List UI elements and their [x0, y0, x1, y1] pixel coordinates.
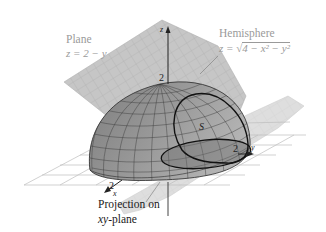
projection-label-line2: xy-plane: [98, 214, 137, 226]
x-axis-label: x: [113, 190, 117, 198]
y-axis-tick: 2: [233, 144, 238, 154]
surface-integral-figure: Plane z = 2 − y Hemisphere z = √4 − x² −…: [0, 0, 326, 232]
figure-canvas: [0, 0, 326, 232]
y-axis-label: y: [251, 144, 255, 152]
plane-equation: z = 2 − y: [66, 48, 107, 59]
hemisphere-equation: z = √4 − x² − y²: [219, 42, 290, 54]
z-axis-label: z: [160, 26, 163, 34]
projection-label-rest: -plane: [108, 213, 137, 225]
plane-title: Plane: [66, 34, 92, 46]
hemisphere-title: Hemisphere: [219, 28, 275, 40]
projection-label-xy: xy: [98, 213, 108, 225]
hemisphere-equation-lhs: z = √: [219, 42, 242, 54]
projection-label-line1: Projection on: [98, 199, 160, 211]
hemisphere-equation-radicand: 4 − x² − y²: [242, 42, 290, 54]
z-axis-tick: 2: [159, 73, 164, 83]
surface-label-S: S: [199, 122, 204, 132]
